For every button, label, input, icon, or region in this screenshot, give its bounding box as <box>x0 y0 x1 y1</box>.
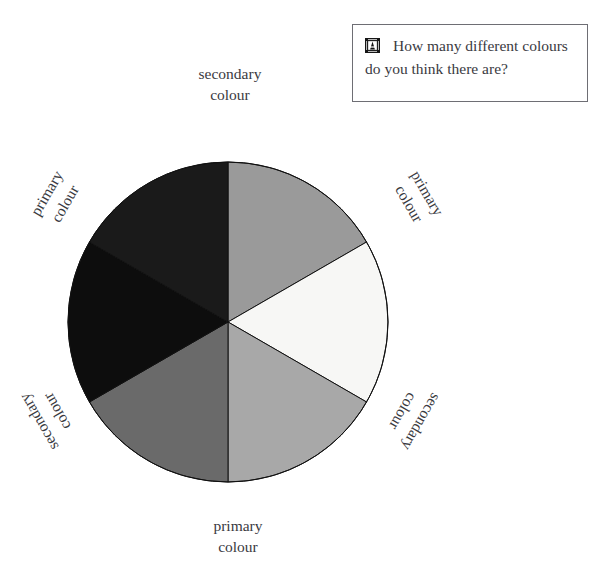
wheel-label-top-line2: colour <box>160 85 300 106</box>
wheel-slice-group <box>68 162 388 482</box>
wheel-label-bottom: primary colour <box>168 516 308 557</box>
framed-ornament-icon <box>365 38 380 53</box>
wheel-label-bottom-line2: colour <box>168 537 308 558</box>
question-paragraph: How many different colours do you think … <box>365 34 577 80</box>
wheel-label-top: secondary colour <box>160 64 300 105</box>
question-text-content: How many different colours do you think … <box>365 37 568 77</box>
wheel-label-bottom-line1: primary <box>168 516 308 537</box>
page-root: · · · · · · secondary colour primary col… <box>0 0 598 579</box>
wheel-label-top-line1: secondary <box>160 64 300 85</box>
question-box: How many different colours do you think … <box>352 24 588 102</box>
